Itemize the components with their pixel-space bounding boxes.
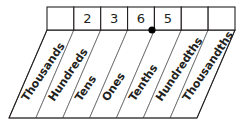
place-value-chart-svg: 2365 ThousandsHundredsTensOnesTenthsHund… [0,0,243,124]
digit-cell-thousandths[interactable] [208,7,235,30]
place-value-chart: 2365 ThousandsHundredsTensOnesTenthsHund… [0,0,243,124]
digit-hundreds: 2 [83,11,91,26]
digit-cell-hundredths[interactable] [181,7,208,30]
decimal-point-icon [148,26,155,33]
digit-ones: 6 [137,11,145,26]
digit-tens: 3 [110,11,118,26]
digit-row: 2365 [47,7,235,30]
digit-cell-thousands[interactable] [47,7,74,30]
digit-tenths: 5 [164,11,172,26]
